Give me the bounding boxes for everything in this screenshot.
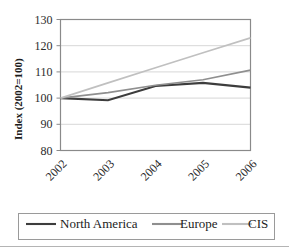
data-series (61, 38, 251, 100)
y-tick-label: 90 (41, 117, 53, 131)
legend-label: CIS (248, 216, 268, 231)
x-tick-label: 2002 (43, 157, 70, 184)
x-tick-label: 2004 (138, 157, 165, 184)
chart-figure: 8090100110120130 20022003200420052006 In… (0, 0, 289, 250)
x-tick-labels: 20022003200420052006 (43, 157, 260, 184)
y-axis-title: Index (2002=100) (12, 58, 25, 140)
gridlines (61, 20, 251, 125)
legend-box (19, 214, 275, 240)
y-tick-label: 100 (35, 91, 53, 105)
x-tick-label: 2006 (233, 157, 260, 184)
legend-label: North America (60, 216, 138, 231)
y-tick-label: 130 (35, 13, 53, 27)
line-chart: 8090100110120130 20022003200420052006 In… (0, 0, 289, 250)
y-tick-label: 120 (35, 39, 53, 53)
series-line (61, 38, 251, 98)
legend-label: Europe (180, 216, 218, 231)
y-tick-label: 110 (35, 65, 53, 79)
x-tick-label: 2005 (185, 157, 212, 184)
y-tick-label: 80 (41, 144, 53, 158)
x-tick-label: 2003 (90, 157, 117, 184)
y-tick-labels: 8090100110120130 (35, 13, 53, 158)
